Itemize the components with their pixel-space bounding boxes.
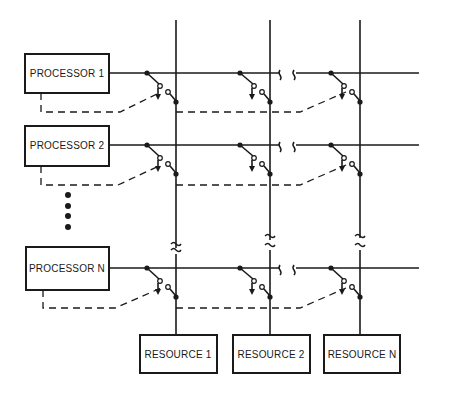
resource-buses — [176, 20, 360, 335]
resource-box-n: RESOURCE N — [324, 335, 400, 373]
processor-label: PROCESSOR 1 — [30, 68, 105, 79]
processor-box-2: PROCESSOR 2 — [25, 126, 109, 166]
crossbar-diagram: PROCESSOR 1 PROCESSOR 2 PROCESSOR N RESO… — [0, 0, 449, 396]
processor-box-1: PROCESSOR 1 — [25, 54, 109, 93]
processor-label: PROCESSOR N — [29, 263, 105, 274]
processor-label: PROCESSOR 2 — [30, 140, 105, 151]
resource-box-2: RESOURCE 2 — [233, 335, 310, 373]
resource-label: RESOURCE 2 — [237, 349, 304, 360]
vertical-break-marks — [171, 235, 365, 252]
resource-label: RESOURCE N — [328, 349, 397, 360]
processor-box-n: PROCESSOR N — [26, 247, 109, 290]
resource-box-1: RESOURCE 1 — [140, 335, 217, 373]
vertical-ellipsis-icon — [65, 192, 71, 230]
resource-label: RESOURCE 1 — [144, 349, 211, 360]
